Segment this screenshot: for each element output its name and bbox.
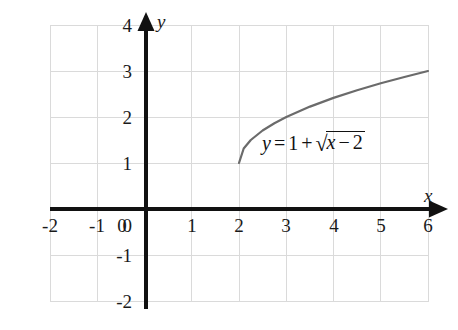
y-tick-label-4: 4: [110, 16, 132, 35]
y-axis-arrowhead: [138, 12, 155, 31]
plot-canvas: [0, 0, 458, 330]
y-tick-label-2: 2: [110, 108, 132, 127]
y-tick-label--1: -1: [104, 246, 132, 265]
y-axis-label: y: [157, 12, 165, 31]
y-axis: [138, 12, 155, 309]
y-tick-label-1: 1: [110, 154, 132, 173]
radicand-minus: −: [335, 131, 352, 153]
equation-constant: 1: [288, 132, 298, 154]
equation-radical: √x−2: [315, 132, 364, 154]
equation-equals: =: [271, 132, 288, 154]
x-tick-label--1: -1: [83, 216, 111, 235]
x-tick-label-6: 6: [417, 216, 439, 235]
radicand: x−2: [326, 131, 365, 152]
equation-annotation: y=1+√x−2: [262, 132, 365, 154]
radicand-number: 2: [353, 131, 363, 153]
x-tick-label--2: -2: [36, 216, 64, 235]
x-tick-label-4: 4: [323, 216, 345, 235]
y-tick-label-0: 0: [110, 216, 132, 235]
graph-figure: -2 -1 0 1 2 3 4 5 6 4 3 2 1 0 -1 -2 y x …: [0, 0, 458, 330]
equation-plus: +: [298, 132, 315, 154]
x-tick-label-5: 5: [370, 216, 392, 235]
x-tick-label-1: 1: [181, 216, 203, 235]
x-axis-label: x: [424, 186, 432, 205]
y-tick-label--2: -2: [104, 292, 132, 311]
x-axis: [50, 201, 448, 218]
y-tick-label-3: 3: [110, 62, 132, 81]
x-tick-label-2: 2: [228, 216, 250, 235]
equation-lhs: y: [262, 132, 271, 154]
x-tick-label-3: 3: [275, 216, 297, 235]
